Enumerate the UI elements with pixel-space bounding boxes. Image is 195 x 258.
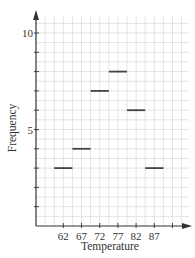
frequency-chart: 626772778287510 Temperature Frequency bbox=[0, 0, 195, 258]
tick-labels: 626772778287510 bbox=[22, 27, 160, 242]
x-tick-label: 62 bbox=[58, 230, 69, 242]
y-tick-label: 5 bbox=[28, 124, 34, 136]
y-axis-arrow-icon bbox=[33, 10, 39, 20]
x-tick-label: 87 bbox=[149, 230, 161, 242]
y-axis-label: Frequency bbox=[6, 103, 19, 152]
grid-lines bbox=[36, 16, 189, 226]
y-tick-label: 10 bbox=[22, 27, 34, 39]
x-axis-label: Temperature bbox=[81, 240, 139, 253]
x-axis-arrow-icon bbox=[182, 223, 192, 229]
